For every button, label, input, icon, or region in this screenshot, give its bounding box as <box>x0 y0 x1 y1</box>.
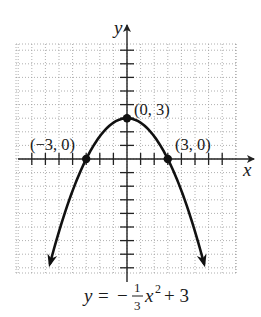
eq-equals: = <box>98 285 109 306</box>
point-label-3-0: (3, 0) <box>175 135 211 154</box>
point-label-neg3-0: (−3, 0) <box>30 135 75 154</box>
equation-label: y = − 1 3 x 2 + 3 <box>82 280 189 313</box>
eq-frac-den: 3 <box>134 298 141 313</box>
eq-frac-num: 1 <box>134 280 141 295</box>
point-label-0-3: (0, 3) <box>134 100 170 119</box>
eq-y: y <box>82 285 93 306</box>
eq-plus-const: + 3 <box>164 285 189 306</box>
y-axis-label: y <box>112 17 123 38</box>
parabola-chart: y x (−3, 0) (0, 3) (3, 0) y = − 1 3 x 2 … <box>0 0 261 317</box>
eq-x: x <box>144 285 154 306</box>
eq-exponent: 2 <box>155 282 161 296</box>
x-axis-label: x <box>242 159 252 180</box>
eq-minus: − <box>117 285 128 306</box>
